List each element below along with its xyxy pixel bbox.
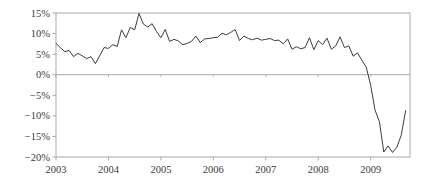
chart-container: 15%10%5%0%−5%−10%−15%−20% 20032004200520… (0, 0, 425, 188)
y-axis-ticks (53, 13, 57, 157)
x-tick-label: 2006 (203, 164, 224, 175)
y-axis-labels: 15%10%5%0%−5%−10%−15%−20% (25, 8, 50, 163)
x-tick-label: 2007 (255, 164, 276, 175)
line-chart: 15%10%5%0%−5%−10%−15%−20% 20032004200520… (0, 0, 425, 188)
y-tick-label: 5% (36, 49, 50, 60)
y-tick-label: −10% (25, 110, 50, 121)
x-tick-label: 2004 (98, 164, 120, 175)
x-tick-label: 2003 (46, 164, 67, 175)
plot-background (56, 13, 410, 157)
y-tick-label: 10% (31, 28, 51, 39)
x-tick-label: 2005 (150, 164, 171, 175)
y-tick-label: −5% (30, 90, 50, 101)
x-tick-label: 2008 (308, 164, 329, 175)
y-tick-label: −15% (25, 131, 50, 142)
y-tick-label: −20% (25, 152, 50, 163)
x-axis-labels: 2003200420052006200720082009 (46, 164, 382, 175)
x-tick-label: 2009 (360, 164, 381, 175)
y-tick-label: 0% (36, 69, 50, 80)
y-tick-label: 15% (31, 8, 51, 19)
